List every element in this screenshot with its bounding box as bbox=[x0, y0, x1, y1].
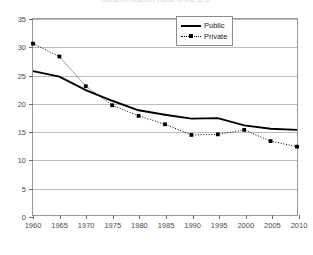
x-tick-label: 1960 bbox=[25, 221, 42, 230]
data-point-marker bbox=[84, 84, 88, 88]
x-tick-mark bbox=[299, 215, 300, 219]
data-point-marker bbox=[269, 139, 273, 143]
x-tick-label: 1975 bbox=[104, 221, 121, 230]
chart-legend: Public Private bbox=[176, 16, 233, 46]
data-point-marker bbox=[58, 55, 62, 59]
x-tick-label: 1995 bbox=[211, 221, 228, 230]
data-point-marker bbox=[242, 128, 246, 132]
x-tick-mark bbox=[193, 215, 194, 219]
y-tick-label: 20 bbox=[18, 99, 26, 108]
legend-key-dotted-square-icon bbox=[181, 32, 201, 41]
series-layer bbox=[33, 19, 297, 215]
data-point-marker bbox=[31, 42, 35, 46]
chart-figure: Student-Teacher Ratio in the U.S. 051015… bbox=[0, 0, 313, 255]
x-tick-label: 1965 bbox=[51, 221, 68, 230]
data-point-marker bbox=[295, 145, 299, 149]
y-tick-label: 5 bbox=[22, 184, 26, 193]
x-tick-label: 1980 bbox=[131, 221, 148, 230]
x-tick-mark bbox=[272, 215, 273, 219]
x-tick-label: 1990 bbox=[184, 221, 201, 230]
x-tick-mark bbox=[60, 215, 61, 219]
x-tick-mark bbox=[33, 215, 34, 219]
y-tick-label: 15 bbox=[18, 128, 26, 137]
series-line-private bbox=[33, 44, 297, 147]
data-point-marker bbox=[190, 133, 194, 137]
data-point-marker bbox=[110, 103, 114, 107]
x-tick-mark bbox=[86, 215, 87, 219]
legend-key-solid-line-icon bbox=[181, 21, 201, 30]
y-tick-label: 35 bbox=[18, 15, 26, 24]
y-tick-label: 10 bbox=[18, 156, 26, 165]
data-point-marker bbox=[216, 132, 220, 136]
x-tick-mark bbox=[166, 215, 167, 219]
data-point-marker bbox=[137, 114, 141, 118]
chart-title: Student-Teacher Ratio in the U.S. bbox=[0, 0, 313, 5]
x-tick-mark bbox=[219, 215, 220, 219]
legend-label-private: Private bbox=[204, 32, 227, 41]
data-point-marker bbox=[163, 122, 167, 126]
x-tick-mark bbox=[113, 215, 114, 219]
x-tick-mark bbox=[139, 215, 140, 219]
x-tick-label: 2005 bbox=[264, 221, 281, 230]
legend-item-public: Public bbox=[181, 20, 227, 31]
x-tick-label: 2010 bbox=[291, 221, 308, 230]
legend-label-public: Public bbox=[204, 21, 224, 30]
y-tick-label: 30 bbox=[18, 43, 26, 52]
y-tick-label: 25 bbox=[18, 71, 26, 80]
x-tick-label: 1985 bbox=[158, 221, 175, 230]
series-line-public bbox=[33, 71, 297, 130]
x-tick-mark bbox=[246, 215, 247, 219]
legend-item-private: Private bbox=[181, 31, 227, 42]
x-tick-label: 2000 bbox=[237, 221, 254, 230]
x-tick-label: 1970 bbox=[78, 221, 95, 230]
plot-area: 05101520253035 1960196519701975198019851… bbox=[32, 18, 298, 216]
